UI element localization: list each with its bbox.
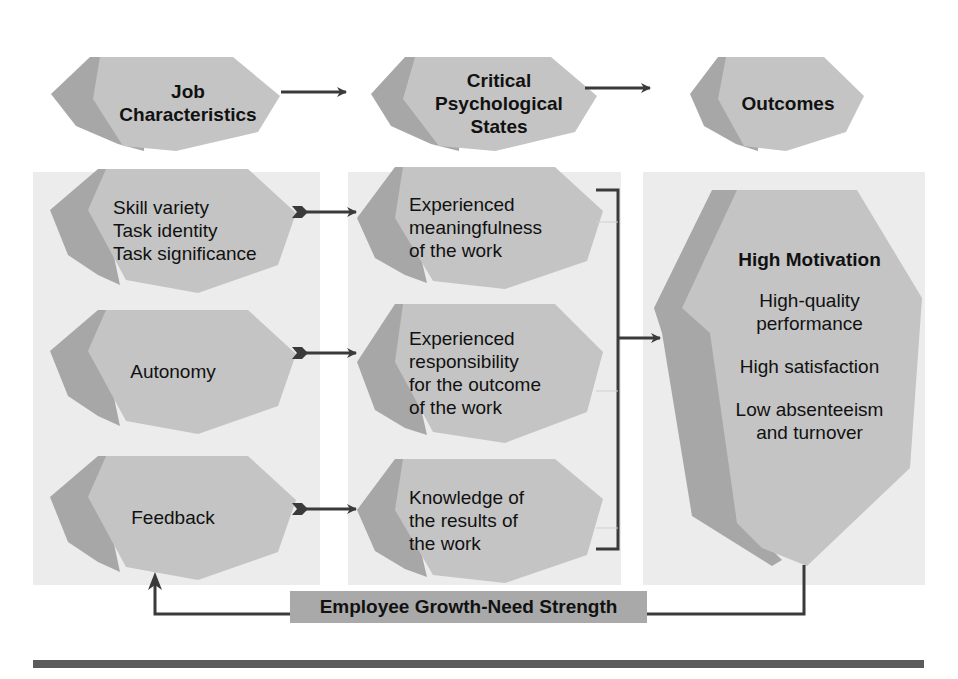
growth-need-strength-label: Employee Growth-Need Strength <box>290 591 647 623</box>
outcome-item: and turnover <box>756 421 863 444</box>
bottom-rule <box>33 660 924 668</box>
job-characteristic-feedback: Feedback <box>48 452 298 582</box>
header-label-job-characteristics: Job Characteristics <box>98 54 278 152</box>
critical-state-label: Experienced responsibility for the outco… <box>409 300 599 445</box>
header-label-critical-states: Critical Psychological States <box>409 54 589 152</box>
header-shape-outcomes: Outcomes <box>688 54 866 152</box>
job-characteristic-autonomy: Autonomy <box>48 306 298 436</box>
outcome-label-block: High Motivation High-quality performance… <box>702 248 917 488</box>
critical-state-knowledge: Knowledge of the results of the work <box>355 455 605 585</box>
job-characteristic-label: Skill variety Task identity Task signifi… <box>113 165 293 295</box>
outcome-title: High Motivation <box>738 248 880 271</box>
job-characteristic-skills: Skill variety Task identity Task signifi… <box>48 165 298 295</box>
critical-state-label: Experienced meaningfulness of the work <box>409 163 599 291</box>
header-shape-job-characteristics: Job Characteristics <box>48 54 283 152</box>
header-shape-critical-states: Critical Psychological States <box>369 54 599 152</box>
outcome-item: High satisfaction <box>740 355 879 378</box>
outcome-high-motivation: High Motivation High-quality performance… <box>652 188 924 568</box>
job-characteristic-label: Feedback <box>88 452 258 582</box>
critical-state-meaningfulness: Experienced meaningfulness of the work <box>355 163 605 291</box>
critical-state-label: Knowledge of the results of the work <box>409 455 599 585</box>
header-label-outcomes: Outcomes <box>718 54 858 152</box>
outcome-item: performance <box>756 312 863 335</box>
outcome-item: Low absenteeism <box>736 398 884 421</box>
job-characteristic-label: Autonomy <box>88 306 258 436</box>
outcome-item: High-quality <box>759 289 859 312</box>
critical-state-responsibility: Experienced responsibility for the outco… <box>355 300 605 445</box>
